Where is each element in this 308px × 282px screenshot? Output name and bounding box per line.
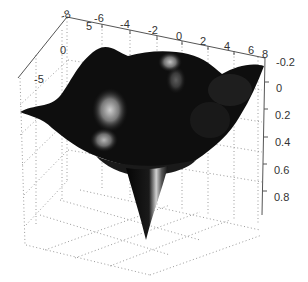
svg-text:-0.2: -0.2 bbox=[276, 56, 295, 68]
svg-text:2: 2 bbox=[200, 35, 206, 47]
svg-text:0: 0 bbox=[176, 30, 182, 42]
svg-text:0.4: 0.4 bbox=[275, 136, 290, 148]
svg-text:-6: -6 bbox=[94, 12, 104, 24]
svg-text:8: 8 bbox=[262, 48, 268, 60]
svg-text:0: 0 bbox=[276, 82, 282, 94]
svg-text:0: 0 bbox=[60, 44, 66, 56]
svg-text:0.2: 0.2 bbox=[275, 109, 290, 121]
svg-text:6: 6 bbox=[248, 44, 254, 56]
svg-text:-2: -2 bbox=[148, 24, 158, 36]
svg-text:0.8: 0.8 bbox=[274, 191, 289, 203]
svg-text:4: 4 bbox=[224, 40, 230, 52]
surface bbox=[20, 47, 264, 240]
surface-plot: -8 -6 -4 -2 0 2 4 6 8 -5 0 5 -0.2 0 0.2 … bbox=[0, 0, 308, 282]
svg-text:-5: -5 bbox=[34, 73, 44, 85]
svg-text:5: 5 bbox=[86, 20, 92, 32]
z-tick-labels: -0.2 0 0.2 0.4 0.6 0.8 bbox=[274, 56, 295, 203]
svg-text:-8: -8 bbox=[59, 7, 72, 21]
svg-text:-4: -4 bbox=[120, 18, 130, 30]
svg-text:0.6: 0.6 bbox=[274, 164, 289, 176]
